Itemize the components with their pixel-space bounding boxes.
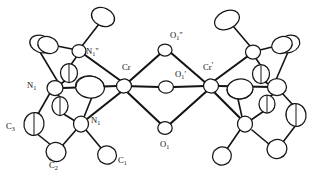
- ellipsoid-cr: [116, 78, 132, 93]
- ellipsoid-n-right-bottom: [238, 116, 253, 132]
- bond-o1p-crp: [174, 86, 205, 87]
- ellipsoid-n-right-top: [246, 45, 261, 59]
- ellipsoid-n-right: [268, 79, 287, 96]
- ortep-structure-canvas: Cr Cr' O1'' O1' O1 N1'' N1 N1: [0, 0, 316, 183]
- ellipsoid-n1-left: [47, 81, 63, 96]
- ellipsoid-o1-double-prime: [158, 44, 172, 56]
- ellipsoid-o1: [158, 122, 172, 135]
- ortep-figure: Cr Cr' O1'' O1' O1 N1'' N1 N1: [0, 0, 316, 183]
- ellipsoid-o1-prime: [159, 81, 174, 93]
- ellipsoid-n1-bottom: [74, 116, 89, 132]
- label-cr: Cr: [122, 62, 131, 72]
- ellipsoid-n1-double-prime: [72, 45, 86, 58]
- ellipsoid-cr-prime: [203, 78, 219, 93]
- label-o1-prime: O1': [175, 69, 187, 80]
